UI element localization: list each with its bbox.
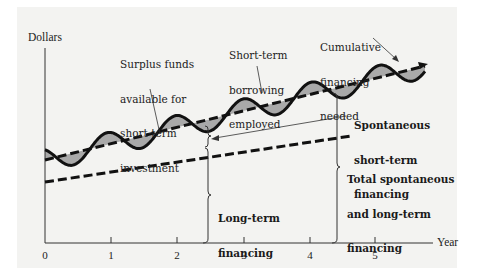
surplus-funds-label: Surplus funds available for short-term i…: [120, 36, 194, 186]
x-tick-4: 4: [307, 249, 313, 261]
x-tick-2: 2: [174, 249, 180, 261]
long-term-financing-line: [45, 136, 351, 182]
short-term-borrowing-label: Short-term borrowing employed: [229, 27, 287, 142]
spontaneous-arrowhead: [211, 135, 219, 141]
brace-long-term: [203, 148, 211, 243]
x-tick-1: 1: [108, 249, 114, 261]
x-tick-0: 0: [42, 249, 48, 261]
y-axis-label: Dollars: [28, 31, 62, 43]
long-term-financing-label: Long-term financing: [218, 190, 280, 271]
total-financing-label: Total spontaneous and long-term financin…: [347, 151, 454, 266]
